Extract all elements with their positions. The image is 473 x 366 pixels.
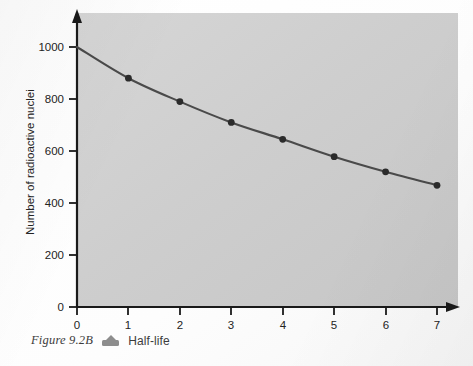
data-point-marker [279, 136, 286, 143]
x-tick-label-2: 2 [177, 319, 183, 331]
data-point-marker [434, 182, 441, 189]
x-tick-label-6: 6 [383, 319, 389, 331]
x-tick-label-5: 5 [331, 319, 337, 331]
x-tick-label-7: 7 [434, 319, 440, 331]
figure-container: 1000 800 600 400 200 0 Number of radioac… [0, 0, 473, 366]
figure-title-label: Half-life [128, 334, 170, 348]
data-point-marker [176, 98, 183, 105]
data-point-marker [228, 119, 235, 126]
data-point-marker [125, 75, 132, 82]
y-tick-label-800: 800 [45, 93, 64, 105]
figure-number-label: Figure 9.2B [31, 333, 93, 348]
y-tick-label-0: 0 [58, 301, 64, 313]
up-triangle-marker-icon [102, 335, 119, 346]
data-point-marker [331, 153, 338, 160]
half-life-decay-chart: 1000 800 600 400 200 0 Number of radioac… [0, 0, 473, 366]
y-tick-label-400: 400 [45, 197, 64, 209]
x-tick-label-3: 3 [228, 319, 234, 331]
x-tick-label-1: 1 [125, 319, 131, 331]
x-tick-label-4: 4 [280, 319, 287, 331]
plot-area-background [77, 13, 458, 307]
data-point-marker [382, 168, 389, 175]
y-tick-label-600: 600 [45, 145, 64, 157]
y-axis-title: Number of radioactive nuclei [24, 89, 36, 235]
figure-caption: Figure 9.2B Half-life [31, 333, 170, 348]
y-tick-label-1000: 1000 [38, 41, 64, 53]
y-tick-label-200: 200 [45, 249, 64, 261]
x-tick-label-0: 0 [74, 319, 80, 331]
